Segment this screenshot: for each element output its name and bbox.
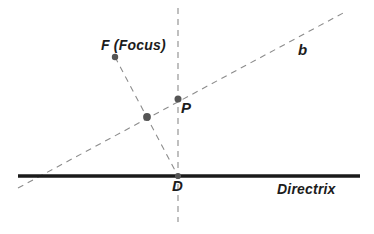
- point-p-label: P: [181, 100, 191, 115]
- point-midpoint-dot: [143, 113, 151, 121]
- geometry-canvas: [0, 0, 374, 234]
- directrix-label: Directrix: [277, 182, 336, 196]
- point-focus-dot: [112, 54, 118, 60]
- point-d-label: D: [172, 178, 183, 193]
- geometry-diagram: F (Focus) P D b Directrix: [0, 0, 374, 234]
- focus-label: F (Focus): [101, 38, 166, 52]
- line-b-label: b: [298, 42, 307, 57]
